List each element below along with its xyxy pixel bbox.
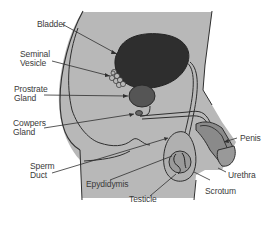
glans [217, 146, 235, 166]
label-urethra: Urethra [228, 171, 256, 180]
label-prostrate-gland: Prostrate Gland [14, 85, 48, 103]
label-penis: Penis [240, 134, 261, 143]
label-scrotum: Scrotum [205, 187, 236, 196]
prostate-gland [129, 85, 155, 107]
label-bladder: Bladder [37, 20, 66, 29]
label-epydidymis: Epydidymis [86, 180, 128, 189]
label-sperm-duct: Sperm Duct [30, 162, 55, 180]
cowpers-gland [136, 111, 143, 116]
label-seminal-vesicle: Seminal Vesicle [20, 50, 50, 68]
label-cowpers-gland: Cowpers Gland [13, 119, 46, 137]
label-testicle: Testicle [129, 195, 157, 204]
